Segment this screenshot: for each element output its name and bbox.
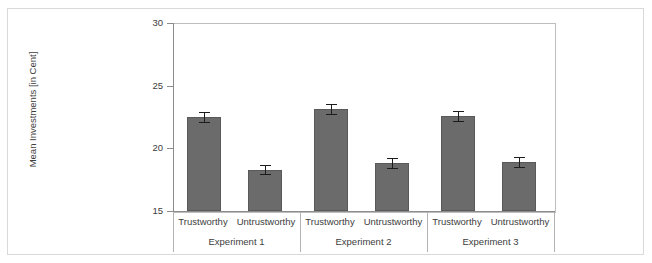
y-tick-25 (167, 86, 173, 87)
category-label-e2-untrustworthy: Untrustworthy (357, 217, 429, 227)
error-bar-cap-1-upper (260, 165, 271, 166)
y-tick-label-20: 20 (128, 143, 163, 153)
bar-experiment-1-trustworthy (187, 117, 221, 211)
bar-experiment-2-untrustworthy (375, 163, 409, 211)
bar-experiment-3-trustworthy (441, 116, 475, 211)
bar-experiment-1-untrustworthy (248, 170, 282, 211)
error-bar-cap-2-lower (326, 114, 337, 115)
bar-experiment-2-trustworthy (314, 109, 348, 211)
y-tick-label-30: 30 (128, 18, 163, 28)
error-bar-stem-4 (458, 111, 459, 121)
figure-frame: Mean Investments [in Cent] 30 25 20 15 T… (7, 8, 644, 255)
category-label-e3-untrustworthy: Untrustworthy (484, 217, 556, 227)
error-bar-cap-4-upper (453, 111, 464, 112)
plot-area (173, 23, 556, 213)
bar-chart: Mean Investments [in Cent] 30 25 20 15 T… (8, 9, 643, 254)
category-label-e3-trustworthy: Trustworthy (426, 217, 488, 227)
error-bar-cap-0-upper (199, 112, 210, 113)
y-tick-30 (167, 23, 173, 24)
x-axis-line (173, 211, 555, 212)
category-label-e1-trustworthy: Trustworthy (172, 217, 234, 227)
y-tick-label-25: 25 (128, 81, 163, 91)
error-bar-stem-1 (265, 165, 266, 174)
category-label-e2-trustworthy: Trustworthy (299, 217, 361, 227)
bar-experiment-3-untrustworthy (502, 162, 536, 211)
y-tick-20 (167, 148, 173, 149)
error-bar-cap-4-lower (453, 121, 464, 122)
error-bar-stem-5 (519, 157, 520, 167)
y-tick-label-20-wrap: 20 (128, 143, 163, 153)
group-label-experiment-3: Experiment 3 (427, 237, 554, 247)
error-bar-cap-1-lower (260, 174, 271, 175)
group-label-experiment-2: Experiment 2 (300, 237, 427, 247)
error-bar-cap-5-upper (514, 157, 525, 158)
error-bar-stem-3 (392, 158, 393, 168)
y-tick-label-15: 15 (128, 206, 163, 216)
error-bar-stem-0 (204, 112, 205, 122)
y-tick-label-30-wrap: 30 (128, 18, 163, 28)
category-label-e1-untrustworthy: Untrustworthy (230, 217, 302, 227)
y-axis-title: Mean Investments [in Cent] (27, 35, 38, 185)
y-axis-line (173, 23, 174, 212)
y-tick-label-25-wrap: 25 (128, 81, 163, 91)
error-bar-stem-2 (331, 104, 332, 114)
group-label-experiment-1: Experiment 1 (173, 237, 300, 247)
error-bar-cap-5-lower (514, 167, 525, 168)
error-bar-cap-0-lower (199, 122, 210, 123)
error-bar-cap-3-upper (387, 158, 398, 159)
error-bar-cap-3-lower (387, 168, 398, 169)
group-separator-right (554, 212, 555, 252)
error-bar-cap-2-upper (326, 104, 337, 105)
y-tick-label-15-wrap: 15 (128, 206, 163, 216)
